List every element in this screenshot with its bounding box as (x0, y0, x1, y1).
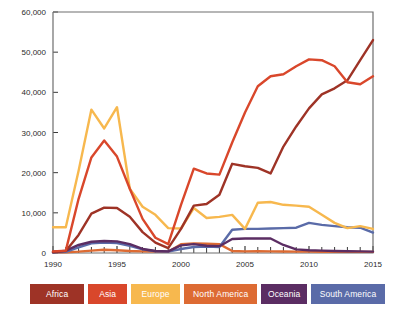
y-tick-label: 10,000 (22, 209, 47, 218)
chart-plot-area: 010,00020,00030,00040,00050,00060,000 19… (0, 0, 411, 320)
y-tick-label: 50,000 (22, 48, 47, 57)
legend-item-label: South America (320, 284, 377, 304)
legend-item-europe[interactable]: Europe (131, 284, 180, 304)
x-tick-label: 2005 (236, 260, 254, 269)
legend-item-north-america[interactable]: North America (184, 284, 257, 304)
x-tick-label: 2010 (300, 260, 318, 269)
legend-item-label: Asia (99, 284, 116, 304)
y-tick-label: 40,000 (22, 88, 47, 97)
x-tick-label: 1990 (44, 260, 62, 269)
y-tick-label: 0 (42, 249, 47, 258)
legend-item-africa[interactable]: Africa (30, 284, 84, 304)
legend-item-label: Europe (142, 284, 170, 304)
legend-item-label: Oceania (268, 284, 300, 304)
x-tick-label: 2000 (172, 260, 190, 269)
legend-item-south-america[interactable]: South America (311, 284, 385, 304)
legend-item-asia[interactable]: Asia (88, 284, 127, 304)
x-tick-label: 2015 (364, 260, 382, 269)
y-axis-labels: 010,00020,00030,00040,00050,00060,000 (22, 8, 47, 258)
y-tick-label: 20,000 (22, 169, 47, 178)
y-tick-label: 30,000 (22, 129, 47, 138)
x-tick-label: 1995 (108, 260, 126, 269)
chart-legend: AfricaAsiaEuropeNorth AmericaOceaniaSout… (30, 284, 385, 304)
x-axis-labels: 199019952000200520102015 (44, 260, 382, 269)
y-tick-label: 60,000 (22, 8, 47, 17)
line-chart: 010,00020,00030,00040,00050,00060,000 19… (0, 0, 411, 320)
legend-item-label: North America (193, 284, 248, 304)
legend-item-label: Africa (46, 284, 68, 304)
legend-item-oceania[interactable]: Oceania (261, 284, 307, 304)
